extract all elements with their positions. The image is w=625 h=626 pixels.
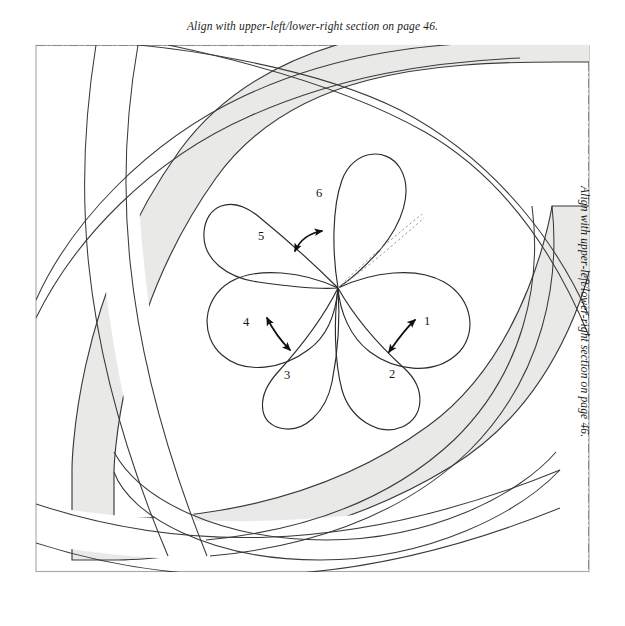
petal-6-shape: [334, 154, 406, 288]
petal-direction-arrows: [267, 231, 415, 352]
pattern-drawing: [0, 0, 625, 626]
flower-six-petal: [204, 154, 470, 430]
petal-1-shape: [338, 273, 470, 369]
arrow-petal-3-4: [267, 318, 290, 350]
petal-3-shape: [262, 288, 338, 429]
arrow-petal-1-2: [389, 320, 415, 352]
petal-4-shape: [207, 273, 338, 368]
pattern-page: Align with upper-left/lower-right sectio…: [0, 0, 625, 626]
flower-dashed-guides: [338, 214, 424, 288]
arrow-petal-5-6: [295, 231, 322, 251]
gray-interlace-band: [72, 20, 594, 560]
petal-5-shape: [204, 205, 338, 289]
petal-2-shape: [335, 288, 420, 430]
